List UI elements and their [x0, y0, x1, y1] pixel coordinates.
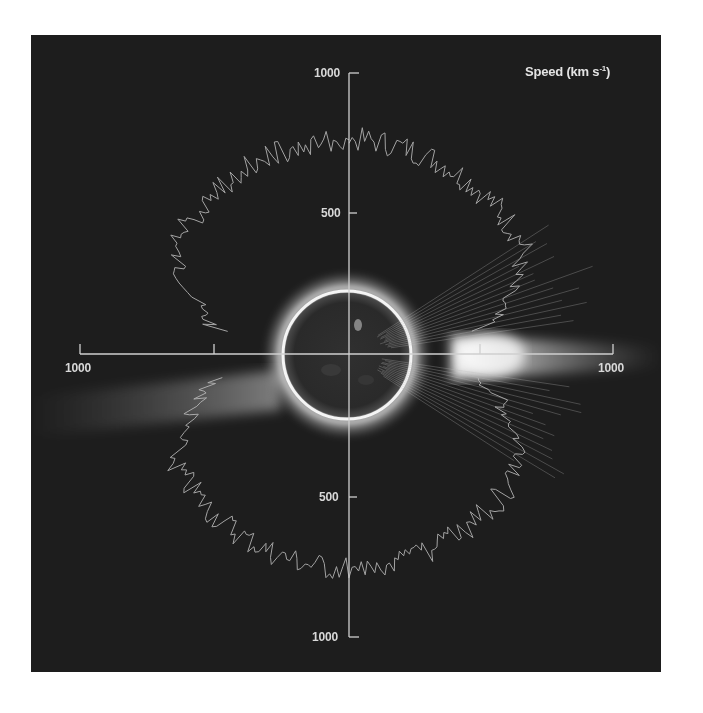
radial-streak: [384, 266, 593, 341]
label-v-bottom-500: 500: [319, 490, 338, 504]
streamer-west: [31, 370, 281, 437]
label-v-top-500: 500: [321, 206, 340, 220]
label-v-bottom-1000: 1000: [312, 630, 338, 644]
streamer-east: [451, 333, 661, 380]
radial-streak: [377, 370, 564, 474]
title-main: Speed (km s: [525, 64, 599, 79]
label-h-right-1000: 1000: [598, 361, 624, 375]
radial-streak: [378, 225, 549, 335]
chart-panel: 1000 500 500 1000 1000 1000 Speed (km s-…: [31, 35, 661, 672]
radial-streak: [383, 376, 514, 461]
label-v-top-1000: 1000: [314, 66, 340, 80]
sun-disk: [263, 271, 431, 439]
chart-title: Speed (km s-1): [525, 64, 610, 79]
polar-speed-plot: [31, 35, 661, 672]
title-close: ): [606, 64, 610, 79]
label-h-left-1000: 1000: [65, 361, 91, 375]
